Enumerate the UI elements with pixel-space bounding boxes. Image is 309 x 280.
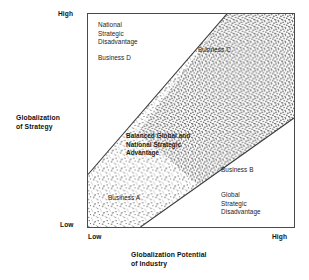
y-axis-low-tick: Low [60, 221, 73, 228]
region-label-business-c: Business C [198, 46, 231, 55]
region-label-business-b: Business B [221, 166, 253, 175]
x-axis-title: Globalization Potential of Industry [131, 250, 207, 269]
y-axis-high-tick: High [58, 10, 73, 17]
globalization-matrix-figure: High Low Globalization of Strategy [0, 0, 309, 280]
region-label-global-strategic-disadvantage: Global Strategic Disadvantage [221, 191, 261, 217]
region-label-national-strategic-disadvantage: National Strategic Disadvantage [98, 21, 138, 47]
region-label-business-a: Business A [108, 194, 140, 203]
region-label-business-d: Business D [98, 54, 131, 63]
plot-area: National Strategic Disadvantage Business… [87, 13, 295, 228]
region-label-balanced-global-national-strategic-advantage: Balanced Global and National Strategic A… [126, 132, 190, 158]
y-axis-title: Globalization of Strategy [16, 113, 60, 132]
x-axis-low-tick: Low [88, 233, 101, 240]
x-axis-high-tick: High [272, 233, 287, 240]
